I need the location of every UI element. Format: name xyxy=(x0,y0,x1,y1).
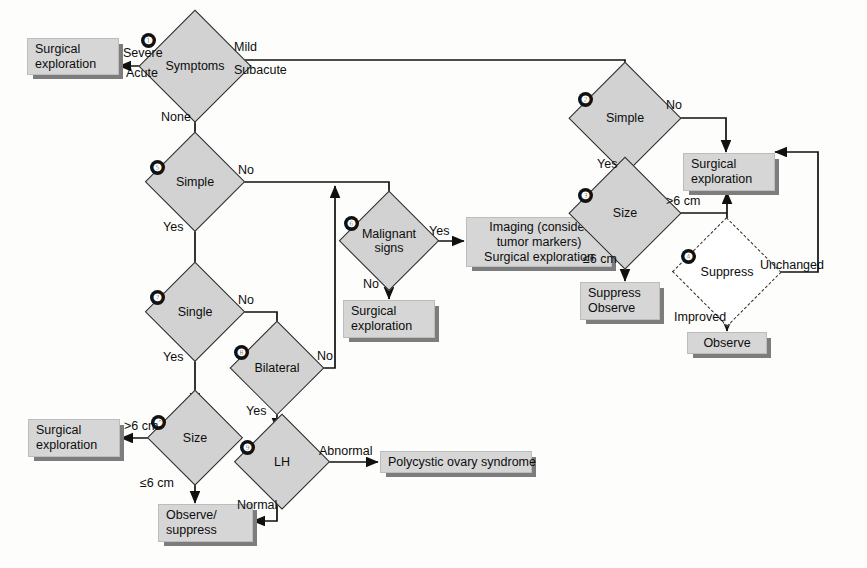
edge-label-simple-none-no: No xyxy=(238,163,254,177)
edge-label-acute: Acute xyxy=(126,66,158,80)
node-number-3: ❸ xyxy=(578,188,593,203)
box-surgical-exploration-malignant-no: Surgical exploration xyxy=(343,300,435,338)
edge-label-lh-abnormal: Abnormal xyxy=(319,444,373,458)
node-number-6: ❻ xyxy=(344,216,359,231)
decision-label: Bilateral xyxy=(231,322,323,414)
box-label: Surgical exploration xyxy=(691,157,752,187)
edge-label-bilateral-no: No xyxy=(317,349,333,363)
edge-label-simple-acute-yes: Yes xyxy=(597,157,617,171)
box-suppress-observe: Suppress Observe xyxy=(580,282,660,320)
node-number-2: ❷ xyxy=(578,92,593,107)
decision-simple-none[interactable]: Simple xyxy=(146,133,244,231)
box-surgical-exploration-size-gt6: Surgical exploration xyxy=(28,419,120,457)
edge-label-severe: Severe xyxy=(123,46,163,60)
edge-label-unchanged: Unchanged xyxy=(760,258,824,272)
flowchart-canvas: Surgical exploration Surgical exploratio… xyxy=(0,0,867,568)
edge-label-subacute: Subacute xyxy=(234,63,287,77)
decision-label: Single xyxy=(146,263,244,361)
edge-label-bilateral-yes: Yes xyxy=(246,404,266,418)
edge-label-malignant-no: No xyxy=(363,277,379,291)
box-polycystic-ovary-syndrome: Polycystic ovary syndrome xyxy=(380,451,532,473)
box-surgical-exploration-severe: Surgical exploration xyxy=(27,38,119,75)
box-observe: Observe xyxy=(687,332,767,354)
box-label: Observe/ suppress xyxy=(166,508,217,538)
edge-label-mild: Mild xyxy=(234,40,257,54)
edge-label-lh-normal: Normal xyxy=(237,498,277,512)
box-label: Suppress Observe xyxy=(588,286,641,316)
box-label: Polycystic ovary syndrome xyxy=(388,455,536,470)
decision-single[interactable]: Single xyxy=(146,263,244,361)
decision-label: Malignant signs xyxy=(340,192,438,290)
decision-label: Simple xyxy=(146,133,244,231)
node-number-5: ❺ xyxy=(150,160,165,175)
edge-label-simple-acute-no: No xyxy=(666,98,682,112)
edge-label-size-gt6-left: >6 cm xyxy=(124,419,158,433)
box-label: Surgical exploration xyxy=(351,304,412,334)
edge-label-single-yes: Yes xyxy=(163,350,183,364)
box-label: Surgical exploration xyxy=(35,42,96,72)
decision-label: Size xyxy=(148,391,242,485)
edge-label-size-le6-left: ≤6 cm xyxy=(140,476,174,490)
edge-label-size-le6-right: ≤6 cm xyxy=(583,252,617,266)
decision-malignant-signs[interactable]: Malignant signs xyxy=(340,192,438,290)
decision-bilateral[interactable]: Bilateral xyxy=(231,322,323,414)
edge-label-improved: Improved xyxy=(674,310,726,324)
node-number-7: ❼ xyxy=(150,290,165,305)
box-surgical-exploration-simple-no: Surgical exploration xyxy=(683,153,775,191)
box-label: Observe xyxy=(703,336,750,351)
box-label: Surgical exploration xyxy=(36,423,97,453)
edge-label-size-gt6-right: >6 cm xyxy=(666,194,700,208)
edge-label-simple-none-yes: Yes xyxy=(163,220,183,234)
edge-label-none: None xyxy=(161,110,191,124)
edge-label-single-no: No xyxy=(238,293,254,307)
node-number-8: ❽ xyxy=(234,345,249,360)
edge-label-malignant-yes: Yes xyxy=(429,224,449,238)
decision-lh[interactable]: LH xyxy=(235,415,329,509)
node-number-9: ❾ xyxy=(240,440,255,455)
decision-label: LH xyxy=(235,415,329,509)
node-number-4: ❹ xyxy=(681,249,696,264)
decision-size-single-yes[interactable]: Size xyxy=(148,391,242,485)
